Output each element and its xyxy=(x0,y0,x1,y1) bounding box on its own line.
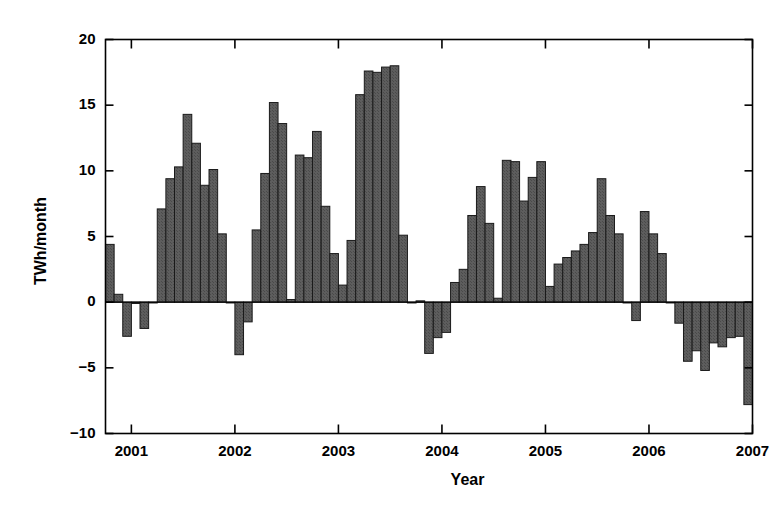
x-axis-tick-label: 2001 xyxy=(101,442,161,459)
bar xyxy=(528,177,537,302)
y-axis-tick-label: −5 xyxy=(78,358,95,375)
bar xyxy=(589,233,598,303)
bar xyxy=(235,302,244,355)
y-axis-title: TWh/month xyxy=(32,197,50,285)
bar xyxy=(563,258,572,303)
bar xyxy=(347,240,356,302)
bar xyxy=(683,302,692,361)
x-axis-title: Year xyxy=(0,471,781,489)
bar xyxy=(304,158,313,302)
bar xyxy=(545,286,554,302)
bar xyxy=(338,285,347,302)
bar xyxy=(390,66,399,302)
bar-chart-plot-area xyxy=(0,0,781,517)
bar xyxy=(356,95,365,303)
x-axis-tick-label: 2004 xyxy=(412,442,472,459)
y-axis-tick-label: 20 xyxy=(79,30,96,47)
bar xyxy=(140,302,149,328)
bar xyxy=(502,160,511,302)
bar xyxy=(373,72,382,302)
bar xyxy=(209,170,218,303)
bar xyxy=(485,223,494,302)
bar xyxy=(701,302,710,370)
bar xyxy=(218,234,227,302)
bar xyxy=(313,131,322,302)
bar xyxy=(425,302,434,353)
bar xyxy=(606,215,615,302)
chart-figure: TWh/month Year −10−505101520 20012002200… xyxy=(0,0,781,517)
x-axis-tick-label: 2007 xyxy=(723,442,781,459)
bar xyxy=(399,235,408,302)
bar xyxy=(261,173,270,302)
bar-series xyxy=(106,66,753,405)
bar xyxy=(200,185,209,302)
bar xyxy=(183,114,192,302)
bar xyxy=(735,302,744,336)
bar xyxy=(364,71,373,302)
bar xyxy=(192,143,201,302)
bar xyxy=(269,103,278,303)
bar xyxy=(649,234,658,302)
bar xyxy=(468,215,477,302)
bar xyxy=(658,254,667,303)
y-axis-tick-label: 5 xyxy=(87,227,95,244)
x-axis-tick-label: 2006 xyxy=(619,442,679,459)
bar xyxy=(640,212,649,303)
bar xyxy=(175,167,184,302)
bar xyxy=(451,282,460,302)
bar xyxy=(511,162,520,303)
bar xyxy=(157,209,166,302)
bar xyxy=(692,302,701,351)
bar xyxy=(252,230,261,302)
bar xyxy=(580,244,589,302)
bar xyxy=(433,302,442,337)
y-axis-tick-label: 10 xyxy=(79,161,96,178)
bar xyxy=(321,206,330,302)
bar xyxy=(520,201,529,302)
bar xyxy=(476,187,485,303)
bar xyxy=(614,234,623,302)
bar xyxy=(278,124,287,303)
y-axis-tick-label: −10 xyxy=(70,424,95,441)
bar xyxy=(709,302,718,343)
bar xyxy=(442,302,451,332)
x-axis-tick-label: 2005 xyxy=(515,442,575,459)
bar xyxy=(727,302,736,337)
bar xyxy=(106,244,115,302)
bar xyxy=(554,264,563,302)
x-axis-tick-label: 2002 xyxy=(205,442,265,459)
bar xyxy=(114,294,123,302)
bar xyxy=(295,155,304,302)
bar xyxy=(675,302,684,323)
bar xyxy=(123,302,132,336)
bar xyxy=(382,67,391,302)
x-axis-tick-label: 2003 xyxy=(308,442,368,459)
y-axis-tick-label: 15 xyxy=(79,95,96,112)
bar xyxy=(597,179,606,302)
bar xyxy=(330,254,339,303)
y-axis-tick-label: 0 xyxy=(87,292,95,309)
bar xyxy=(744,302,753,404)
bar xyxy=(244,302,253,322)
bar xyxy=(718,302,727,347)
bar xyxy=(571,251,580,302)
bar xyxy=(632,302,641,320)
bar xyxy=(459,269,468,302)
bar xyxy=(166,179,175,302)
bar xyxy=(537,162,546,303)
